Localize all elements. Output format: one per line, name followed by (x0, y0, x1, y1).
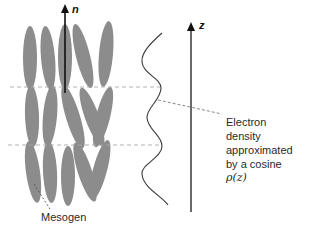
arrowhead-icon (187, 22, 195, 31)
z-axis (187, 22, 195, 212)
director-label: n (72, 3, 79, 15)
mesogen-ellipse (40, 85, 59, 148)
annotation-line: Electron (226, 115, 296, 129)
annotation-line: by a cosine (226, 157, 296, 171)
annotation-line: approximated (226, 143, 296, 157)
arrowhead-icon (61, 4, 69, 13)
mesogen-ellipse (23, 26, 37, 90)
mesogen-label: Mesogen (41, 210, 86, 224)
annotation-leader-line (158, 100, 222, 114)
mesogen-ellipse (68, 22, 98, 89)
mesogen-ellipse (96, 21, 116, 88)
mesogen-ellipse (61, 146, 75, 206)
mesogen-ellipse (24, 85, 40, 147)
density-formula: ρ(z) (226, 171, 296, 185)
z-axis-label: z (199, 19, 205, 31)
electron-density-curve (142, 33, 168, 205)
mesogen-group (22, 21, 118, 206)
mesogen-ellipse (41, 141, 58, 204)
annotation-line: density (226, 129, 296, 143)
electron-density-annotation: Electron density approximated by a cosin… (226, 115, 296, 185)
mesogen-ellipse (38, 26, 58, 91)
